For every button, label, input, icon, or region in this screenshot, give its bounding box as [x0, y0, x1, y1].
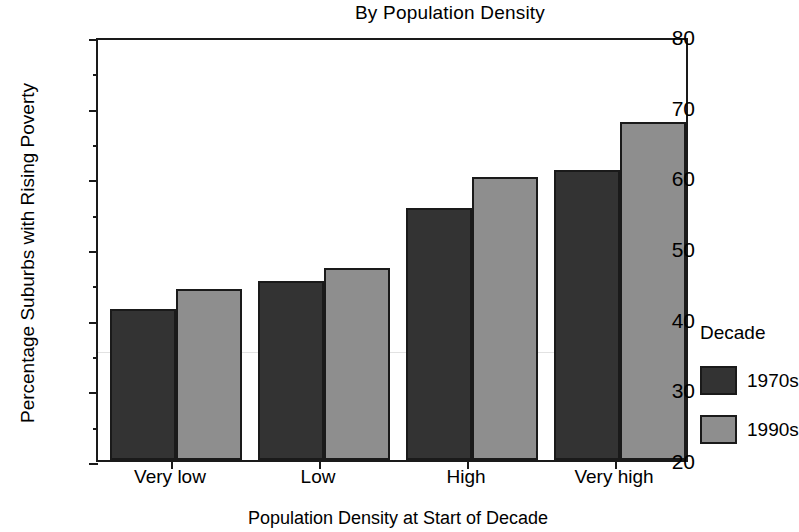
bar [176, 289, 242, 460]
y-axis-minor-tick [93, 357, 98, 359]
bar-chart: By Population Density Percentage Suburbs… [0, 0, 799, 532]
y-axis-tick-label: 70 [639, 98, 695, 119]
legend-label: 1990s [747, 419, 799, 441]
y-axis-tick [89, 392, 98, 394]
y-axis-tick [89, 251, 98, 253]
x-axis-label: Population Density at Start of Decade [108, 508, 688, 529]
legend-swatch [700, 415, 737, 444]
x-axis-category-label: High [381, 466, 551, 488]
legend-title: Decade [700, 322, 799, 344]
y-axis-tick-label: 50 [639, 239, 695, 260]
y-axis-minor-tick [93, 145, 98, 147]
y-axis-tick [89, 39, 98, 41]
bar [110, 309, 176, 460]
bar [472, 177, 538, 460]
x-axis-category-label: Low [233, 466, 403, 488]
y-axis-tick-label: 30 [639, 380, 695, 401]
y-axis-minor-tick [93, 216, 98, 218]
legend-item: 1990s [700, 415, 799, 444]
x-axis-category-label: Very high [529, 466, 699, 488]
y-axis-tick-label: 80 [639, 27, 695, 48]
bar [258, 281, 324, 460]
y-axis-label: Percentage Suburbs with Rising Poverty [17, 33, 39, 473]
legend-swatch [700, 366, 737, 395]
legend-item: 1970s [700, 366, 799, 395]
y-axis-tick [89, 463, 98, 465]
plot-inner [98, 40, 686, 460]
y-axis-tick [89, 322, 98, 324]
y-axis-minor-tick [93, 74, 98, 76]
chart-title: By Population Density [300, 2, 600, 24]
y-axis-minor-tick [93, 428, 98, 430]
y-axis-tick [89, 110, 98, 112]
y-axis-tick-label: 60 [639, 168, 695, 189]
legend: Decade 1970s1990s [700, 322, 799, 464]
plot-area [96, 38, 688, 462]
y-axis-minor-tick [93, 286, 98, 288]
bar [554, 170, 620, 460]
y-axis-tick [89, 180, 98, 182]
legend-items: 1970s1990s [700, 366, 799, 444]
y-axis-tick-label: 40 [639, 310, 695, 331]
bar [324, 268, 390, 460]
legend-label: 1970s [747, 370, 799, 392]
x-axis-category-label: Very low [85, 466, 255, 488]
bar [406, 208, 472, 460]
